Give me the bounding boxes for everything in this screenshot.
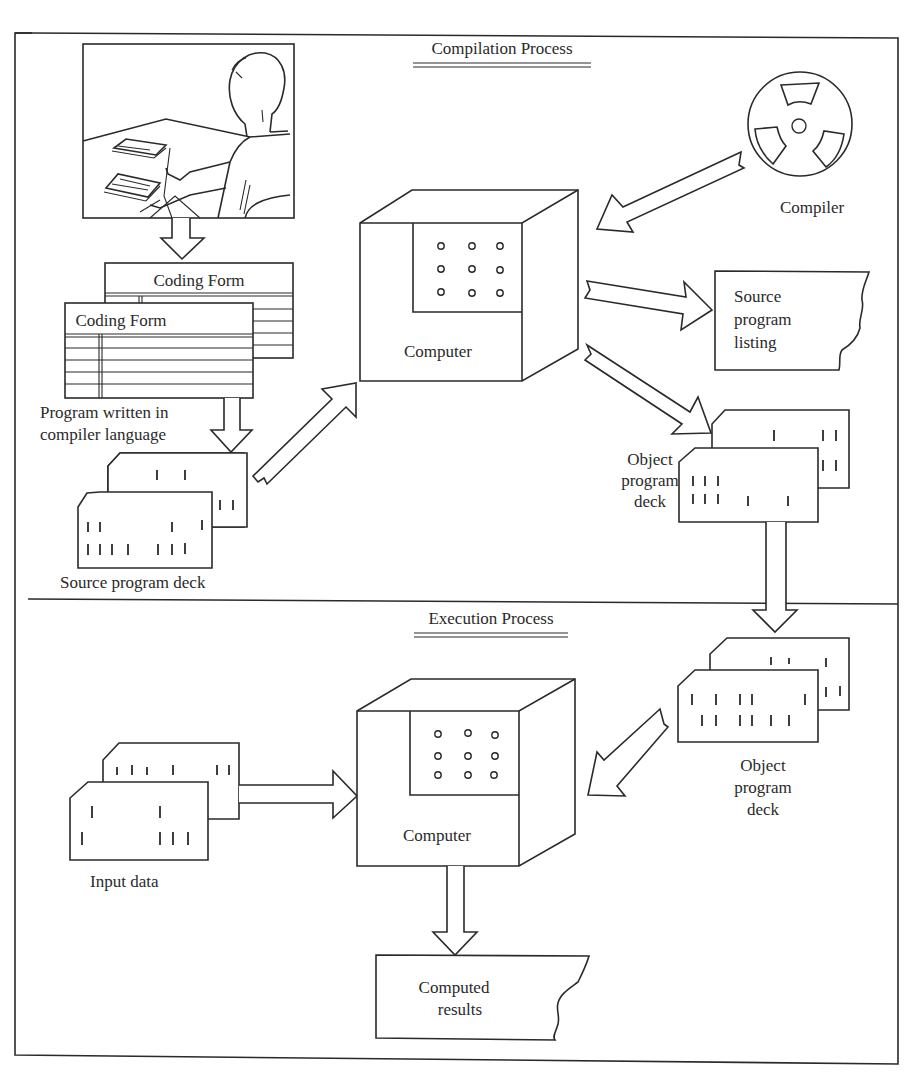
arrow-computer-to-results [433,866,477,955]
arrow-object-deck-to-computer [588,709,668,796]
tape-reel-icon [748,72,852,176]
coding-form-front: Coding Form [65,303,253,398]
compilation-title: Compilation Process [413,39,591,67]
programmer-at-desk-illustration [83,44,294,218]
arrow-forms-to-source-deck [211,398,252,452]
arrow-computer-to-object-deck [585,345,711,434]
svg-text:program: program [621,471,679,490]
arrow-illustration-to-forms [161,218,204,259]
source-deck-label: Source program deck [60,573,206,592]
arrow-input-to-computer [239,771,357,818]
input-data-label: Input data [90,872,159,891]
source-program-listing: Source program listing [715,271,869,370]
object-program-deck-input [678,638,849,742]
svg-text:Object: Object [740,756,786,775]
computed-results: Computed results [376,955,589,1040]
source-program-deck [78,453,247,568]
svg-text:Computer: Computer [403,826,471,845]
svg-text:Computer: Computer [404,342,472,361]
coding-form-caption: Program written in [40,403,169,422]
svg-text:Execution Process: Execution Process [428,609,553,628]
svg-text:deck: deck [747,800,780,819]
svg-text:Computed: Computed [419,978,490,997]
svg-text:Coding Form: Coding Form [153,271,244,290]
svg-text:Coding Form: Coding Form [75,311,166,330]
compilation-execution-figure: Compilation Process Execution Process [0,0,921,1083]
execution-title: Execution Process [414,609,568,637]
compiler-label: Compiler [780,198,845,217]
object-deck-label-output: Object program deck [621,450,679,511]
arrow-computer-to-listing [585,281,712,330]
arrow-compiler-to-computer [597,152,744,232]
arrow-source-deck-to-computer [253,383,356,484]
coding-form-caption: compiler language [40,425,166,444]
svg-text:program: program [734,778,792,797]
input-data-deck [70,743,239,860]
object-deck-label-input: Object program deck [734,756,792,819]
svg-text:Compilation Process: Compilation Process [431,39,572,58]
computer-execution: Computer [357,679,575,866]
svg-text:deck: deck [634,492,667,511]
svg-text:results: results [438,1000,482,1019]
svg-text:Object: Object [627,450,673,469]
svg-text:Source: Source [734,287,781,306]
computer-compilation: Computer [360,190,578,381]
svg-text:listing: listing [734,333,777,352]
svg-text:program: program [734,310,792,329]
arrow-object-deck-to-execution [753,522,797,632]
